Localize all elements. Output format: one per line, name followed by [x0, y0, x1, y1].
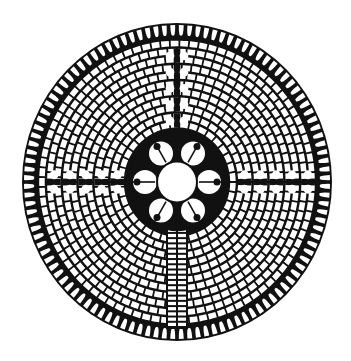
rosette-petal [197, 170, 221, 194]
entry-stone [178, 255, 186, 258]
entry-stone [178, 307, 186, 310]
turn-bar [238, 178, 252, 185]
turn-lobe [180, 84, 189, 93]
turn-lobe [180, 68, 189, 77]
path-stone [308, 192, 314, 200]
path-stone [187, 49, 195, 55]
turn-bar [285, 179, 299, 186]
entry-stone [168, 281, 176, 284]
entry-stone [168, 244, 176, 247]
entry-stone [178, 250, 186, 253]
entry-stone [178, 297, 186, 300]
path-stone [158, 284, 166, 291]
turn-bar [174, 81, 181, 95]
center-rosette [129, 133, 225, 231]
entry-stone [178, 286, 186, 289]
entry-stone [168, 312, 176, 315]
path-stone [300, 163, 306, 171]
path-stone [39, 168, 45, 176]
path-stone [63, 163, 69, 172]
entry-stone [168, 286, 176, 289]
path-stone [71, 192, 78, 201]
turn-lobe [304, 170, 313, 179]
entry-stone [168, 265, 176, 268]
turn-bar [301, 179, 315, 186]
path-stone [71, 163, 78, 172]
path-stone [161, 41, 169, 47]
path-stone [284, 192, 290, 201]
turn-bar [63, 179, 77, 186]
turn-lobe [304, 185, 313, 194]
labyrinth-svg [0, 0, 351, 361]
turn-lobe [113, 185, 122, 194]
path-stone [180, 41, 188, 47]
turn-bar [79, 178, 93, 185]
turn-lobe [272, 185, 281, 194]
entry-stone [178, 291, 186, 294]
entry-stone [178, 271, 186, 274]
rosette-center [158, 163, 196, 202]
turn-lobe [180, 51, 189, 60]
turn-bar [94, 178, 108, 185]
turn-bar [174, 65, 181, 79]
entry-stone [168, 239, 176, 242]
path-stone [187, 284, 195, 291]
turn-lobe [166, 117, 175, 126]
entry-stone [168, 318, 176, 321]
turn-lobe [50, 185, 59, 194]
turn-bar [174, 49, 181, 63]
entry-stone [178, 265, 186, 268]
turn-lobe [240, 170, 249, 179]
path-stone [292, 192, 298, 200]
turn-lobe [256, 170, 265, 179]
path-stone [159, 308, 167, 314]
entry-stone [178, 244, 186, 247]
entry-stone [178, 318, 186, 321]
turn-lobe [166, 51, 175, 60]
path-stone [39, 178, 45, 186]
path-stone [284, 163, 290, 172]
turn-bar [110, 178, 124, 185]
path-stone [190, 41, 198, 48]
path-stone [187, 74, 195, 81]
entry-stone [178, 260, 186, 263]
turn-lobe [50, 170, 59, 179]
turn-lobe [166, 84, 175, 93]
entry-stone [168, 291, 176, 294]
path-stone [48, 192, 54, 200]
path-stone [292, 163, 298, 171]
entry-stone [168, 255, 176, 258]
turn-bar [269, 178, 283, 185]
path-stone [159, 49, 167, 55]
entry-stone [168, 297, 176, 300]
turn-lobe [180, 117, 189, 126]
entry-stone [168, 307, 176, 310]
path-stone [40, 158, 47, 167]
path-stone [156, 58, 164, 65]
turn-lobe [66, 170, 75, 179]
entry-stone [178, 281, 186, 284]
path-stone [230, 173, 236, 181]
turn-lobe [288, 185, 297, 194]
path-stone [308, 163, 314, 171]
turn-lobe [166, 68, 175, 77]
path-stone [39, 188, 45, 196]
entry-stone [178, 302, 186, 305]
path-stone [156, 300, 164, 307]
path-stone [268, 163, 275, 172]
turn-lobe [180, 100, 189, 109]
entry-stone [178, 276, 186, 279]
turn-lobe [81, 185, 90, 194]
turn-lobe [166, 100, 175, 109]
path-stone [230, 183, 236, 191]
entry-stone [178, 323, 186, 326]
rosette-petal [133, 170, 157, 194]
path-stone [48, 163, 54, 171]
entry-stone [178, 234, 186, 237]
entry-stone [168, 260, 176, 263]
turn-lobe [66, 185, 75, 194]
path-stone [276, 163, 283, 172]
turn-lobe [240, 185, 249, 194]
turn-lobe [256, 185, 265, 194]
path-stone [158, 74, 166, 81]
